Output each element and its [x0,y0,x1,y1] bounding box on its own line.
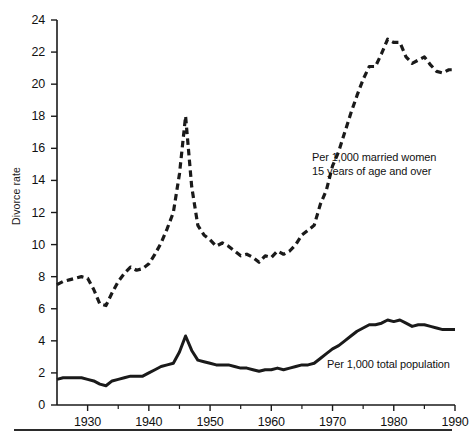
x-tick-label: 1990 [433,415,473,429]
y-tick-label: 0 [17,398,45,412]
x-axis-ticks [88,405,455,411]
x-tick-label: 1970 [311,415,355,429]
y-tick-label: 10 [17,238,45,252]
y-tick-label: 20 [17,77,45,91]
y-tick-label: 22 [17,45,45,59]
x-tick-label: 1950 [188,415,232,429]
y-tick-label: 6 [17,302,45,316]
y-tick-label: 14 [17,173,45,187]
x-tick-label: 1960 [249,415,293,429]
y-tick-label: 12 [17,206,45,220]
y-tick-label: 16 [17,141,45,155]
series-total-population [57,320,455,386]
y-tick-label: 8 [17,270,45,284]
x-tick-label: 1930 [66,415,110,429]
y-tick-label: 24 [17,13,45,27]
x-tick-label: 1980 [372,415,416,429]
data-series-layer [57,39,455,386]
y-tick-label: 18 [17,109,45,123]
annotation-total-population: Per 1,000 total population [327,357,450,371]
annotation-total-population-line1: Per 1,000 total population [327,357,450,371]
annotation-married-women-line1: Per 1,000 married women [312,150,436,164]
y-tick-label: 2 [17,366,45,380]
x-tick-label: 1940 [127,415,171,429]
annotation-married-women-line2: 15 years of age and over [312,164,436,178]
annotation-married-women: Per 1,000 married women 15 years of age … [312,150,436,178]
bottom-divider [14,429,452,431]
axes [57,20,455,405]
y-axis-ticks [51,20,57,405]
y-tick-label: 4 [17,334,45,348]
